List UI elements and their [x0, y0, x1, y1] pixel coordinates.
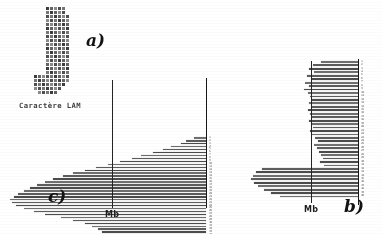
lam-pixel — [50, 19, 53, 22]
lam-pixel — [46, 7, 49, 10]
lam-pixel — [62, 27, 65, 30]
bar — [320, 161, 358, 163]
tick-label: 3 — [361, 68, 372, 71]
bar — [85, 170, 207, 172]
lam-pixel — [66, 43, 69, 46]
bar — [98, 228, 206, 230]
lam-pixel — [50, 15, 53, 18]
panel-c-label: c) — [48, 186, 66, 206]
lam-pixel — [58, 11, 61, 14]
lam-pixel — [58, 39, 61, 42]
bar — [73, 220, 206, 222]
bar — [153, 152, 206, 154]
panel-a-label: a) — [86, 30, 105, 50]
lam-pixel — [50, 7, 53, 10]
bar — [304, 89, 358, 91]
bar — [309, 102, 358, 104]
lam-pixel — [62, 15, 65, 18]
bar — [102, 231, 206, 233]
lam-pixel — [66, 31, 69, 34]
bar — [310, 96, 358, 98]
bar — [305, 82, 358, 84]
tick-label: 2 — [361, 64, 372, 67]
bar — [271, 192, 358, 194]
lam-pixel — [46, 31, 49, 34]
panel-c-chart: 1234567891011121314151617181920212223242… — [0, 60, 240, 234]
lam-pixel — [54, 7, 57, 10]
lam-pixel — [54, 39, 57, 42]
bar — [10, 199, 206, 201]
bar — [258, 185, 358, 187]
panel-b-label: b) — [344, 196, 364, 216]
panel-c-tick-labels: 1234567891011121314151617181920212223242… — [208, 137, 220, 234]
lam-pixel — [54, 51, 57, 54]
lam-pixel — [50, 39, 53, 42]
lam-pixel — [54, 19, 57, 22]
lam-pixel — [62, 39, 65, 42]
bar — [194, 137, 206, 139]
lam-pixel — [58, 15, 61, 18]
lam-pixel — [62, 43, 65, 46]
bar — [312, 99, 358, 101]
lam-pixel — [50, 55, 53, 58]
bar — [311, 123, 358, 125]
bar — [314, 71, 358, 73]
lam-pixel — [66, 35, 69, 38]
bar — [312, 116, 358, 118]
bar — [163, 149, 206, 151]
tick-label: 6 — [361, 78, 372, 81]
lam-pixel — [50, 51, 53, 54]
bar — [141, 155, 206, 157]
lam-pixel — [58, 19, 61, 22]
bar — [312, 134, 358, 136]
bar — [321, 154, 358, 156]
lam-pixel — [58, 35, 61, 38]
lam-pixel — [50, 23, 53, 26]
bar — [313, 127, 358, 129]
lam-pixel — [66, 23, 69, 26]
lam-pixel — [54, 15, 57, 18]
bar — [314, 144, 358, 146]
tick-label: 7 — [361, 81, 372, 84]
bar — [256, 171, 358, 173]
lam-pixel — [54, 43, 57, 46]
bar — [321, 61, 358, 63]
lam-pixel — [58, 27, 61, 30]
lam-pixel — [58, 51, 61, 54]
bar — [132, 158, 207, 160]
lam-pixel — [58, 47, 61, 50]
lam-pixel — [46, 55, 49, 58]
bar — [308, 109, 358, 111]
lam-pixel — [62, 23, 65, 26]
bar — [324, 165, 358, 167]
tick-label: 8 — [361, 85, 372, 88]
lam-pixel — [50, 27, 53, 30]
lam-pixel — [62, 55, 65, 58]
lam-pixel — [54, 55, 57, 58]
lam-pixel — [46, 51, 49, 54]
bar — [53, 178, 206, 180]
lam-pixel — [66, 39, 69, 42]
bar — [186, 140, 206, 142]
lam-pixel — [54, 27, 57, 30]
lam-pixel — [54, 11, 57, 14]
lam-pixel — [54, 47, 57, 50]
bar — [311, 78, 358, 80]
bar — [171, 146, 206, 148]
bar — [61, 217, 206, 219]
lam-pixel — [58, 43, 61, 46]
lam-pixel — [58, 23, 61, 26]
bar — [120, 161, 206, 163]
panel-c-mb-label: Mb — [105, 210, 119, 219]
lam-pixel — [54, 31, 57, 34]
lam-pixel — [58, 31, 61, 34]
bar — [45, 181, 206, 183]
bar — [262, 168, 358, 170]
lam-pixel — [46, 39, 49, 42]
lam-pixel — [46, 35, 49, 38]
bar — [12, 202, 206, 204]
bar — [309, 68, 358, 70]
lam-pixel — [46, 23, 49, 26]
bar — [181, 143, 207, 145]
lam-pixel — [62, 11, 65, 14]
